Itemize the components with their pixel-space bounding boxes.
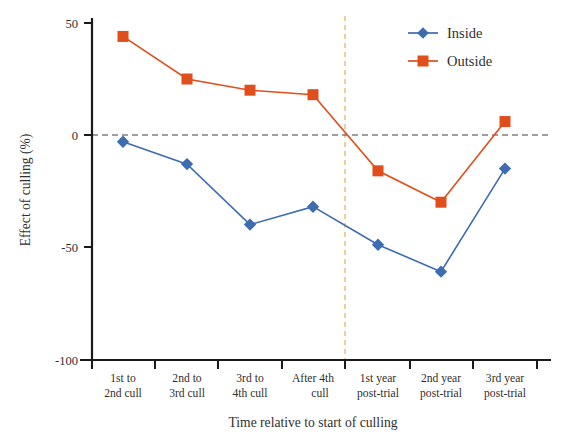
x-axis-title: Time relative to start of culling bbox=[228, 415, 397, 430]
data-point-outside-5[interactable]: 2nd year post-trial: -30 bbox=[436, 197, 447, 208]
x-category-label-5-line2: post-trial bbox=[420, 387, 462, 400]
data-point-outside-0[interactable]: 1st to 2nd cull: 44 bbox=[118, 31, 129, 42]
data-point-inside-4[interactable]: 1st year post-trial: -49 bbox=[372, 239, 384, 251]
y-tick-label-50: 50 bbox=[66, 17, 79, 31]
data-point-inside-3[interactable]: After 4th cull: -32 bbox=[307, 200, 319, 212]
legend-item-outside[interactable]: Outside bbox=[408, 53, 492, 69]
data-point-outside-2[interactable]: 3rd to 4th cull: 20 bbox=[245, 85, 256, 96]
chart-canvas: 50 0 -50 -100 1st to 2nd cull 2nd to 3rd… bbox=[0, 0, 566, 441]
x-category-label-2-line1: 3rd to bbox=[236, 372, 264, 385]
y-tick-label-minus100: -100 bbox=[55, 354, 78, 368]
x-category-label-2-line2: 4th cull bbox=[232, 387, 267, 400]
x-category-labels: 1st to 2nd cull 2nd to 3rd cull 3rd to 4… bbox=[104, 372, 526, 400]
legend: Inside Outside bbox=[408, 25, 492, 69]
legend-label-outside: Outside bbox=[447, 53, 492, 69]
data-point-inside-6[interactable]: 3rd year post-trial: -15 bbox=[499, 162, 511, 174]
x-category-label-4-line1: 1st year bbox=[360, 372, 397, 385]
legend-label-inside: Inside bbox=[447, 25, 482, 41]
y-tick-label-minus50: -50 bbox=[61, 241, 78, 255]
y-axis-title: Effect of culling (%) bbox=[18, 134, 34, 247]
x-category-label-3-line2: cull bbox=[311, 387, 328, 400]
culling-effect-chart: 50 0 -50 -100 1st to 2nd cull 2nd to 3rd… bbox=[0, 0, 566, 441]
x-category-label-3-line1: After 4th bbox=[292, 372, 334, 385]
legend-item-inside[interactable]: Inside bbox=[408, 25, 482, 41]
x-category-label-0-line2: 2nd cull bbox=[104, 387, 142, 400]
x-category-label-1-line2: 3rd cull bbox=[169, 387, 205, 400]
x-category-label-6-line1: 3rd year bbox=[486, 372, 524, 385]
x-category-label-5-line1: 2nd year bbox=[421, 372, 461, 385]
data-point-inside-5[interactable]: 2nd year post-trial: -61 bbox=[435, 265, 447, 277]
data-point-outside-4[interactable]: 1st year post-trial: -16 bbox=[373, 165, 384, 176]
data-point-inside-0[interactable]: 1st to 2nd cull: -3 bbox=[117, 136, 129, 148]
y-tick-label-0: 0 bbox=[72, 129, 78, 143]
data-point-outside-6[interactable]: 3rd year post-trial: 6 bbox=[500, 116, 511, 127]
x-category-label-0-line1: 1st to bbox=[110, 372, 136, 385]
data-point-outside-3[interactable]: After 4th cull: 18 bbox=[308, 89, 319, 100]
data-point-outside-1[interactable]: 2nd to 3rd cull: 25 bbox=[182, 74, 193, 85]
x-category-label-1-line1: 2nd to bbox=[172, 372, 202, 385]
x-category-label-6-line2: post-trial bbox=[484, 387, 526, 400]
x-category-label-4-line2: post-trial bbox=[357, 387, 399, 400]
series-inside: 1st to 2nd cull: -32nd to 3rd cull: -133… bbox=[117, 136, 511, 278]
legend-marker-diamond-icon bbox=[417, 27, 429, 39]
legend-marker-square-icon bbox=[418, 56, 429, 67]
